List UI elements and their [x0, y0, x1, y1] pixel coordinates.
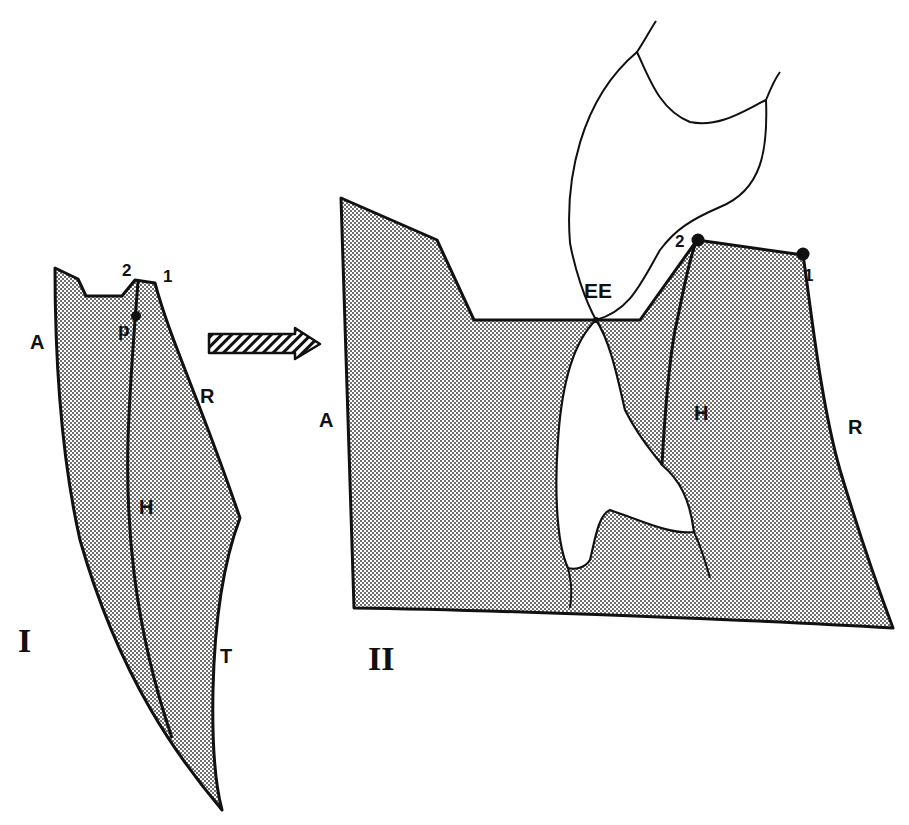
- figure-II-upper-root-left: [637, 21, 656, 52]
- figure-II-numeral: II: [368, 640, 394, 677]
- figure-II-label-A: A: [319, 409, 333, 431]
- figure-I-numeral: I: [18, 622, 31, 659]
- figure-I-label-T: T: [220, 645, 232, 667]
- figure-II-label-EE: EE: [584, 279, 612, 302]
- figure-II-point-1: [797, 248, 810, 261]
- figure-II-label-2: 2: [675, 232, 684, 251]
- figure-II-point-2: [692, 234, 705, 247]
- figure-I-label-p: p: [118, 319, 130, 340]
- hatched-arrow-icon: [209, 328, 320, 359]
- figure-II-upper-root-right: [766, 72, 780, 100]
- diagram-canvas: 2 1 p A R H T I 2 1 EE A H R II: [0, 0, 909, 825]
- diagram-svg: 2 1 p A R H T I 2 1 EE A H R II: [0, 0, 909, 825]
- figure-I-label-A: A: [30, 331, 44, 353]
- figure-I-label-2: 2: [122, 261, 131, 280]
- figure-II-label-R: R: [848, 416, 863, 438]
- figure-II-label-1: 1: [804, 266, 813, 285]
- figure-I-label-H: H: [139, 496, 153, 518]
- figure-I-label-1: 1: [163, 267, 172, 286]
- figure-I-point-p: [131, 311, 141, 321]
- figure-II: 2 1 EE A H R II: [319, 21, 893, 677]
- figure-I-label-R: R: [200, 385, 215, 407]
- figure-II-contact-point: [593, 317, 599, 323]
- figure-II-label-H: H: [694, 402, 708, 424]
- transition-arrow: [209, 328, 320, 359]
- figure-I: 2 1 p A R H T I: [18, 261, 240, 810]
